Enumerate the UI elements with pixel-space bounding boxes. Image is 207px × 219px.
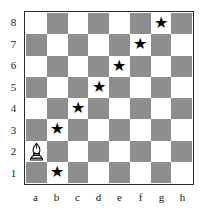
rank-label-3: 3 — [4, 120, 23, 142]
star-icon: ★ — [154, 15, 168, 31]
square-h7[interactable] — [171, 34, 192, 55]
square-h2[interactable] — [171, 141, 192, 162]
rank-label-6: 6 — [4, 55, 23, 77]
square-g2[interactable] — [151, 141, 172, 162]
file-label-f: f — [130, 188, 151, 206]
square-e6[interactable]: ★ — [109, 56, 130, 77]
square-b5[interactable] — [47, 77, 68, 98]
star-marker-b3: ★ — [47, 119, 68, 140]
square-c2[interactable] — [68, 141, 89, 162]
star-icon: ★ — [112, 58, 126, 74]
square-e5[interactable] — [109, 77, 130, 98]
star-marker-e6: ★ — [109, 56, 130, 77]
star-icon: ★ — [92, 79, 106, 95]
square-b6[interactable] — [47, 56, 68, 77]
square-a3[interactable] — [26, 119, 47, 140]
square-b2[interactable] — [47, 141, 68, 162]
square-c3[interactable] — [68, 119, 89, 140]
rank-label-1: 1 — [4, 163, 23, 185]
square-f5[interactable] — [130, 77, 151, 98]
square-d8[interactable] — [88, 13, 109, 34]
square-h3[interactable] — [171, 119, 192, 140]
file-label-a: a — [25, 188, 46, 206]
square-b3[interactable]: ★ — [47, 119, 68, 140]
square-a1[interactable] — [26, 162, 47, 183]
square-f8[interactable] — [130, 13, 151, 34]
chess-diagram: 87654321 ★★★★★★★ abcdefgh — [0, 0, 207, 219]
square-d4[interactable] — [88, 98, 109, 119]
star-marker-b1: ★ — [47, 162, 68, 183]
square-f6[interactable] — [130, 56, 151, 77]
file-label-h: h — [172, 188, 193, 206]
square-d3[interactable] — [88, 119, 109, 140]
file-label-row: abcdefgh — [25, 188, 193, 206]
square-g7[interactable] — [151, 34, 172, 55]
square-e7[interactable] — [109, 34, 130, 55]
white-bishop-icon — [28, 142, 45, 161]
square-g1[interactable] — [151, 162, 172, 183]
square-g8[interactable]: ★ — [151, 13, 172, 34]
file-label-e: e — [109, 188, 130, 206]
square-e1[interactable] — [109, 162, 130, 183]
star-icon: ★ — [50, 164, 64, 180]
square-e8[interactable] — [109, 13, 130, 34]
square-d1[interactable] — [88, 162, 109, 183]
square-h6[interactable] — [171, 56, 192, 77]
star-icon: ★ — [133, 36, 147, 52]
square-b1[interactable]: ★ — [47, 162, 68, 183]
square-g4[interactable] — [151, 98, 172, 119]
square-a8[interactable] — [26, 13, 47, 34]
square-d7[interactable] — [88, 34, 109, 55]
square-d5[interactable]: ★ — [88, 77, 109, 98]
star-marker-c4: ★ — [68, 98, 89, 119]
square-c1[interactable] — [68, 162, 89, 183]
square-b8[interactable] — [47, 13, 68, 34]
square-f1[interactable] — [130, 162, 151, 183]
square-f4[interactable] — [130, 98, 151, 119]
rank-label-5: 5 — [4, 77, 23, 99]
square-a4[interactable] — [26, 98, 47, 119]
square-a2[interactable] — [26, 141, 47, 162]
star-icon: ★ — [71, 100, 85, 116]
rank-label-7: 7 — [4, 34, 23, 56]
square-a6[interactable] — [26, 56, 47, 77]
square-h4[interactable] — [171, 98, 192, 119]
square-g5[interactable] — [151, 77, 172, 98]
square-d6[interactable] — [88, 56, 109, 77]
file-label-c: c — [67, 188, 88, 206]
square-e4[interactable] — [109, 98, 130, 119]
file-label-d: d — [88, 188, 109, 206]
square-c7[interactable] — [68, 34, 89, 55]
rank-label-8: 8 — [4, 12, 23, 34]
square-e3[interactable] — [109, 119, 130, 140]
chessboard-grid[interactable]: ★★★★★★★ — [26, 13, 192, 183]
square-c4[interactable]: ★ — [68, 98, 89, 119]
rank-label-4: 4 — [4, 98, 23, 120]
rank-label-column: 87654321 — [4, 12, 23, 184]
square-g3[interactable] — [151, 119, 172, 140]
square-b4[interactable] — [47, 98, 68, 119]
file-label-b: b — [46, 188, 67, 206]
square-f2[interactable] — [130, 141, 151, 162]
star-marker-d5: ★ — [88, 77, 109, 98]
star-icon: ★ — [50, 121, 64, 137]
square-a7[interactable] — [26, 34, 47, 55]
square-c8[interactable] — [68, 13, 89, 34]
board-frame: ★★★★★★★ — [24, 11, 194, 185]
square-h5[interactable] — [171, 77, 192, 98]
square-c6[interactable] — [68, 56, 89, 77]
square-d2[interactable] — [88, 141, 109, 162]
star-marker-g8: ★ — [151, 13, 172, 34]
piece-a2[interactable] — [26, 141, 47, 162]
square-g6[interactable] — [151, 56, 172, 77]
square-a5[interactable] — [26, 77, 47, 98]
square-h1[interactable] — [171, 162, 192, 183]
square-e2[interactable] — [109, 141, 130, 162]
square-c5[interactable] — [68, 77, 89, 98]
square-f3[interactable] — [130, 119, 151, 140]
square-h8[interactable] — [171, 13, 192, 34]
file-label-g: g — [151, 188, 172, 206]
star-marker-f7: ★ — [130, 34, 151, 55]
square-b7[interactable] — [47, 34, 68, 55]
square-f7[interactable]: ★ — [130, 34, 151, 55]
